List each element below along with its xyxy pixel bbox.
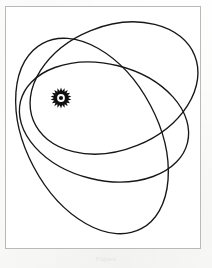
sun-core-dot: [59, 96, 63, 100]
figure-frame: [5, 6, 201, 249]
orbit-diagram: [6, 7, 201, 249]
sun-symbol: [51, 88, 72, 109]
orbit-2: [7, 45, 201, 199]
orbit-paths: [6, 7, 201, 249]
orbit-1: [10, 7, 201, 178]
orbit-3: [6, 12, 200, 249]
figure-caption: Figure: [0, 255, 212, 264]
figure-page: Figure: [0, 0, 212, 268]
